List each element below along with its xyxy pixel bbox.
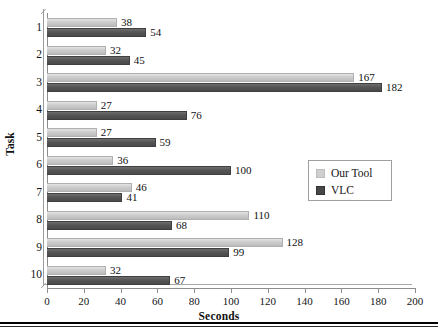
bar-group: 32: [47, 46, 415, 55]
bar: [47, 248, 229, 257]
x-axis-tick: [378, 288, 379, 293]
bar-value-label: 128: [287, 236, 304, 248]
bar: [47, 238, 283, 247]
bar-group: 182: [47, 83, 415, 92]
bar-group: 68: [47, 221, 415, 230]
bar-value-label: 45: [134, 54, 145, 66]
bar-value-label: 59: [160, 136, 171, 148]
bar: [47, 276, 170, 285]
x-axis-tick: [47, 288, 48, 293]
x-axis-tick: [194, 288, 195, 293]
bar-value-label: 27: [101, 126, 112, 138]
bar: [47, 183, 132, 192]
bar: [47, 101, 97, 110]
legend-swatch-vlc: [316, 186, 325, 195]
y-axis-tick-label: 3: [16, 76, 42, 88]
y-axis-tick-label: 5: [16, 131, 42, 143]
y-axis-tick-label: 10: [16, 268, 42, 280]
chart-legend: Our Tool VLC: [308, 160, 392, 201]
x-axis-tick-label: 60: [137, 295, 177, 307]
bar-value-label: 27: [101, 99, 112, 111]
bar-group: 45: [47, 56, 415, 65]
x-axis-tick-label: 40: [101, 295, 141, 307]
bar-group: 167: [47, 73, 415, 82]
bar: [47, 28, 146, 37]
plot-area: 3854324516718227762759361004641110681289…: [47, 13, 415, 288]
x-axis-tick-label: 140: [285, 295, 325, 307]
x-axis-tick-label: 120: [248, 295, 288, 307]
bar-value-label: 32: [110, 264, 121, 276]
legend-item-vlc: VLC: [316, 183, 354, 197]
bar-value-label: 38: [121, 16, 132, 28]
x-axis-tick-label: 160: [321, 295, 361, 307]
bar-group: 59: [47, 138, 415, 147]
bar-group: 76: [47, 111, 415, 120]
bar: [47, 211, 249, 220]
legend-swatch-our-tool: [316, 169, 325, 178]
bar-group: 99: [47, 248, 415, 257]
bar-value-label: 167: [358, 71, 375, 83]
bar: [47, 73, 354, 82]
bar-group: 110: [47, 211, 415, 220]
legend-label-our-tool: Our Tool: [331, 167, 372, 180]
bar-value-label: 68: [176, 219, 187, 231]
x-axis-tick-label: 0: [27, 295, 67, 307]
y-axis-tick-label: 4: [16, 103, 42, 115]
bar: [47, 193, 122, 202]
bar-group: 27: [47, 128, 415, 137]
bar: [47, 46, 106, 55]
bar-value-label: 54: [150, 26, 161, 38]
x-axis-tick: [84, 288, 85, 293]
bar: [47, 156, 113, 165]
bar: [47, 56, 130, 65]
x-axis-tick-label: 20: [64, 295, 104, 307]
x-axis-tick: [231, 288, 232, 293]
bar-value-label: 67: [174, 274, 185, 286]
bar-group: 27: [47, 101, 415, 110]
horizontal-bar-chart: 12345678910 020406080100120140160180200 …: [0, 0, 438, 335]
y-axis-tick-labels: 12345678910: [12, 13, 42, 288]
bar-value-label: 110: [253, 209, 269, 221]
bar: [47, 221, 172, 230]
x-axis-tick-label: 100: [211, 295, 251, 307]
y-axis-tick-label: 8: [16, 213, 42, 225]
x-axis-title: Seconds: [0, 310, 438, 322]
bar: [47, 111, 187, 120]
page-rule-secondary: [0, 326, 438, 327]
x-axis-tick: [268, 288, 269, 293]
x-axis-tick: [305, 288, 306, 293]
y-axis-tick-label: 6: [16, 158, 42, 170]
y-axis-tick-label: 2: [16, 48, 42, 60]
y-axis-tick-label: 1: [16, 21, 42, 33]
bar-value-label: 182: [386, 81, 403, 93]
bar: [47, 18, 117, 27]
y-axis-tick-label: 9: [16, 241, 42, 253]
x-axis-tick: [121, 288, 122, 293]
x-axis-tick-label: 80: [174, 295, 214, 307]
legend-item-our-tool: Our Tool: [316, 166, 372, 180]
bar: [47, 128, 97, 137]
legend-label-vlc: VLC: [331, 184, 354, 197]
y-axis-title: Task: [4, 122, 16, 166]
bar: [47, 83, 382, 92]
bar-group: 38: [47, 18, 415, 27]
x-axis-tick: [157, 288, 158, 293]
bar-group: 128: [47, 238, 415, 247]
bar: [47, 166, 231, 175]
x-axis-tick: [341, 288, 342, 293]
bar-value-label: 99: [233, 246, 244, 258]
x-axis-tick: [415, 288, 416, 293]
x-axis-tick-label: 180: [358, 295, 398, 307]
bar: [47, 138, 156, 147]
bar-value-label: 41: [126, 191, 137, 203]
bar-group: 67: [47, 276, 415, 285]
bar-value-label: 36: [117, 154, 128, 166]
bar-group: 32: [47, 266, 415, 275]
y-axis-tick-label: 7: [16, 186, 42, 198]
bar-group: 54: [47, 28, 415, 37]
y-axis-back-line: [43, 9, 44, 286]
bar-value-label: 76: [191, 109, 202, 121]
bar-value-label: 100: [235, 164, 252, 176]
bar-value-label: 32: [110, 44, 121, 56]
x-axis-tick-label: 200: [395, 295, 435, 307]
